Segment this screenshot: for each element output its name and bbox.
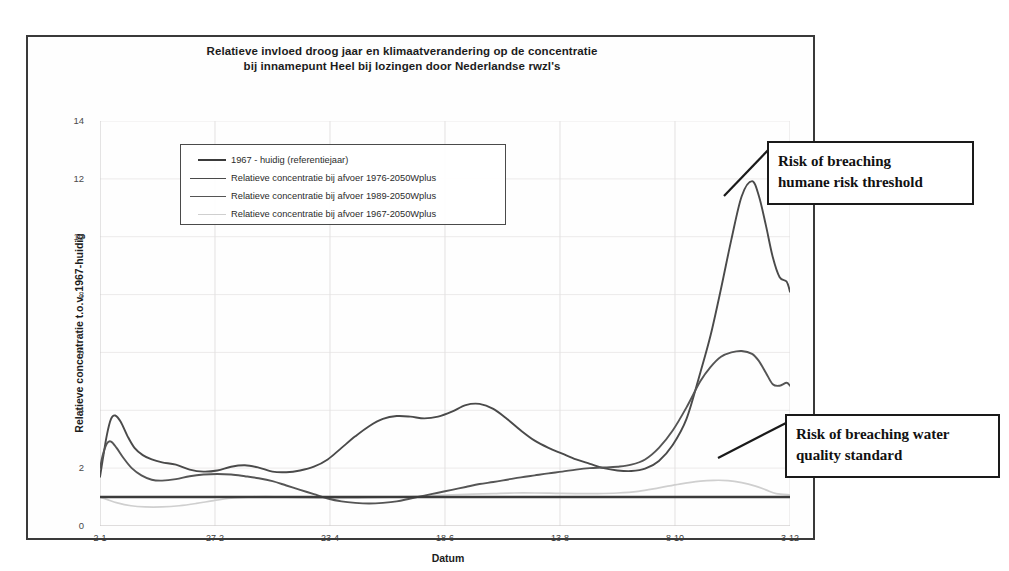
x-tick-label: 18-6	[422, 533, 468, 543]
annotation-water-line-2: quality standard	[796, 445, 989, 466]
annotation-water-line-1: Risk of breaching water	[796, 424, 989, 445]
x-tick-label: 23-4	[307, 533, 353, 543]
legend-item-3: Relatieve concentratie bij afvoer 1989-2…	[181, 187, 505, 205]
y-tick-label: 10	[58, 231, 84, 242]
y-tick-label: 12	[58, 173, 84, 184]
y-tick-label: 8	[58, 289, 84, 300]
x-tick-label: 13-8	[537, 533, 583, 543]
annotation-humane-line-1: Risk of breaching	[778, 151, 963, 172]
legend-label: Relatieve concentratie bij afvoer 1967-2…	[231, 209, 436, 219]
y-tick-label: 6	[58, 346, 84, 357]
x-tick-label: 8-10	[652, 533, 698, 543]
legend-label: 1967 - huidig (referentiejaar)	[231, 155, 348, 165]
x-axis-title: Datum	[368, 552, 528, 564]
chart-title-line-2: bij innamepunt Heel bij lozingen door Ne…	[122, 59, 682, 74]
x-tick-label: 27-2	[192, 533, 238, 543]
x-tick-label: 3-12	[767, 533, 813, 543]
chart-legend: 1967 - huidig (referentiejaar)Relatieve …	[180, 144, 506, 225]
legend-swatch-icon	[198, 214, 226, 215]
y-tick-label: 0	[58, 520, 84, 531]
y-tick-label: 4	[58, 404, 84, 415]
page-title: Relatieve invloed droog jaar en klimaatv…	[122, 44, 682, 74]
chart-title-line-1: Relatieve invloed droog jaar en klimaatv…	[122, 44, 682, 59]
legend-swatch-icon	[198, 159, 226, 161]
legend-item-2: Relatieve concentratie bij afvoer 1976-2…	[181, 169, 505, 187]
legend-label: Relatieve concentratie bij afvoer 1989-2…	[231, 191, 436, 201]
legend-item-1: 1967 - huidig (referentiejaar)	[181, 151, 505, 169]
annotation-humane-risk: Risk of breaching humane risk threshold	[767, 141, 974, 205]
x-tick-label: 2-1	[77, 533, 123, 543]
legend-item-4: Relatieve concentratie bij afvoer 1967-2…	[181, 205, 505, 223]
annotation-humane-line-2: humane risk threshold	[778, 172, 963, 193]
y-tick-label: 14	[58, 115, 84, 126]
annotation-leader-line-water	[712, 418, 792, 464]
legend-label: Relatieve concentratie bij afvoer 1976-2…	[231, 173, 436, 183]
annotation-water-quality: Risk of breaching water quality standard	[785, 414, 1000, 478]
scanned-figure-frame: Relatieve invloed droog jaar en klimaatv…	[26, 35, 815, 540]
legend-swatch-icon	[190, 178, 226, 179]
y-tick-label: 2	[58, 462, 84, 473]
legend-swatch-icon	[190, 196, 226, 197]
